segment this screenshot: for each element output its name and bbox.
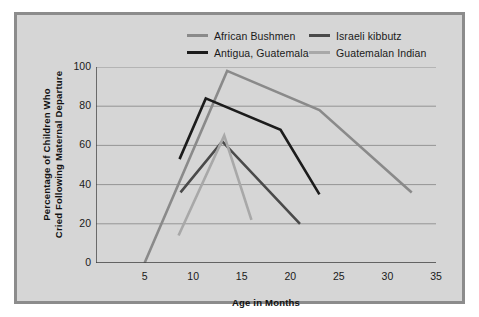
legend-label: Guatemalan Indian [336, 47, 426, 59]
y-tick-label: 80 [65, 99, 91, 111]
x-tick-label: 15 [230, 270, 254, 282]
x-tick-label: 10 [181, 270, 205, 282]
legend-item-israeli-kibbutz: Israeli kibbutz [309, 30, 457, 42]
y-axis-title-line1: Percentage of Children Who [41, 57, 53, 253]
gridlines [96, 67, 436, 224]
series-line-african-bushmen [145, 71, 412, 263]
y-tick-label: 60 [65, 138, 91, 150]
y-axis-title-line2: Cried Following Maternal Departure [52, 57, 64, 253]
axis-tickmarks [96, 67, 436, 263]
plot-area [96, 67, 436, 263]
x-tick-label: 35 [424, 270, 448, 282]
legend-item-antigua-guatemala: Antigua, Guatemala [187, 47, 309, 59]
x-tick-label: 5 [133, 270, 157, 282]
y-tick-label: 20 [65, 217, 91, 229]
legend-swatch-icon [309, 34, 330, 38]
legend-swatch-icon [187, 34, 208, 38]
y-axis-title: Percentage of Children Who Cried Followi… [41, 57, 64, 253]
legend-label: Israeli kibbutz [336, 30, 402, 42]
legend-item-african-bushmen: African Bushmen [187, 30, 309, 42]
series-line-antigua-guatemala [180, 98, 320, 194]
x-axis-title: Age in Months [96, 297, 436, 308]
x-tick-label: 20 [278, 270, 302, 282]
legend-label: African Bushmen [214, 30, 295, 42]
data-series-layer [145, 71, 412, 263]
legend-label: Antigua, Guatemala [214, 47, 309, 59]
y-tick-label: 100 [65, 60, 91, 72]
y-tick-label: 0 [65, 256, 91, 268]
chart-svg [96, 67, 436, 263]
y-tick-label: 40 [65, 178, 91, 190]
legend-swatch-icon [187, 51, 208, 55]
chart-figure: African Bushmen Israeli kibbutz Antigua,… [14, 12, 465, 304]
chart-legend: African Bushmen Israeli kibbutz Antigua,… [187, 27, 457, 61]
x-tick-label: 30 [375, 270, 399, 282]
legend-swatch-icon [309, 51, 330, 55]
legend-item-guatemalan-indian: Guatemalan Indian [309, 47, 457, 59]
x-tick-label: 25 [327, 270, 351, 282]
